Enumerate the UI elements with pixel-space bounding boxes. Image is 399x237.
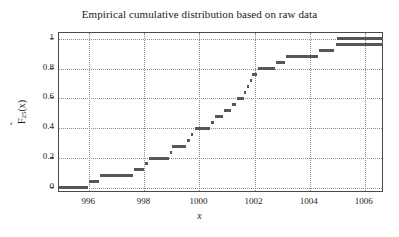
y-tick-mark <box>50 157 54 158</box>
y-tick-label: 0.4 <box>43 121 54 131</box>
step-segment <box>191 133 194 136</box>
step-segment <box>224 109 231 112</box>
x-tick-label: 996 <box>82 196 96 206</box>
step-segment <box>244 91 246 94</box>
gridline-horizontal <box>59 158 382 159</box>
chart-page: Empirical cumulative distribution based … <box>0 0 399 237</box>
y-tick-label: 0.2 <box>43 151 54 161</box>
step-segment <box>100 174 134 177</box>
gridline-horizontal <box>59 39 382 40</box>
step-segment <box>134 168 144 171</box>
step-segment <box>252 73 257 76</box>
step-segment <box>319 49 334 52</box>
gridline-vertical <box>365 33 366 191</box>
x-tick-label: 1004 <box>300 196 318 206</box>
step-segment <box>258 67 275 70</box>
step-segment <box>232 103 236 106</box>
step-segment <box>59 186 88 189</box>
step-segment <box>237 97 244 100</box>
x-axis-tick-labels: 9969981000100210041006 <box>58 196 383 210</box>
y-tick-label: 0 <box>50 181 55 191</box>
gridline-vertical <box>144 33 145 191</box>
y-tick-mark <box>50 187 54 188</box>
y-tick-mark <box>50 97 54 98</box>
gridline-vertical <box>199 33 200 191</box>
page-title: Empirical cumulative distribution based … <box>0 8 399 20</box>
gridline-horizontal <box>59 98 382 99</box>
step-segment <box>336 43 383 46</box>
step-segment <box>250 79 252 82</box>
step-segment <box>211 121 214 124</box>
y-tick-label: 0.8 <box>43 62 54 72</box>
y-tick-mark <box>50 127 54 128</box>
step-segment <box>145 162 148 165</box>
gridline-horizontal <box>59 188 382 189</box>
step-segment <box>172 145 185 148</box>
step-segment <box>286 55 318 58</box>
step-segment <box>195 127 211 130</box>
step-segment <box>170 151 172 154</box>
gridline-horizontal <box>59 69 382 70</box>
step-segment <box>149 157 170 160</box>
step-segment <box>337 37 383 40</box>
x-tick-label: 1002 <box>245 196 263 206</box>
gridline-horizontal <box>59 128 382 129</box>
x-tick-label: 1000 <box>189 196 207 206</box>
x-tick-label: 1006 <box>355 196 373 206</box>
step-segment <box>89 180 99 183</box>
y-tick-mark <box>50 38 54 39</box>
y-axis-tick-labels: 00.20.40.60.81 <box>20 32 54 192</box>
plot-area <box>58 32 383 192</box>
y-tick-label: 0.6 <box>43 91 54 101</box>
y-tick-mark <box>50 68 54 69</box>
x-axis-label: x <box>0 210 399 221</box>
step-segment <box>276 61 285 64</box>
step-segment <box>247 85 249 88</box>
gridline-vertical <box>255 33 256 191</box>
gridline-vertical <box>89 33 90 191</box>
step-segment <box>215 115 223 118</box>
step-segment <box>187 139 190 142</box>
x-tick-label: 998 <box>137 196 151 206</box>
